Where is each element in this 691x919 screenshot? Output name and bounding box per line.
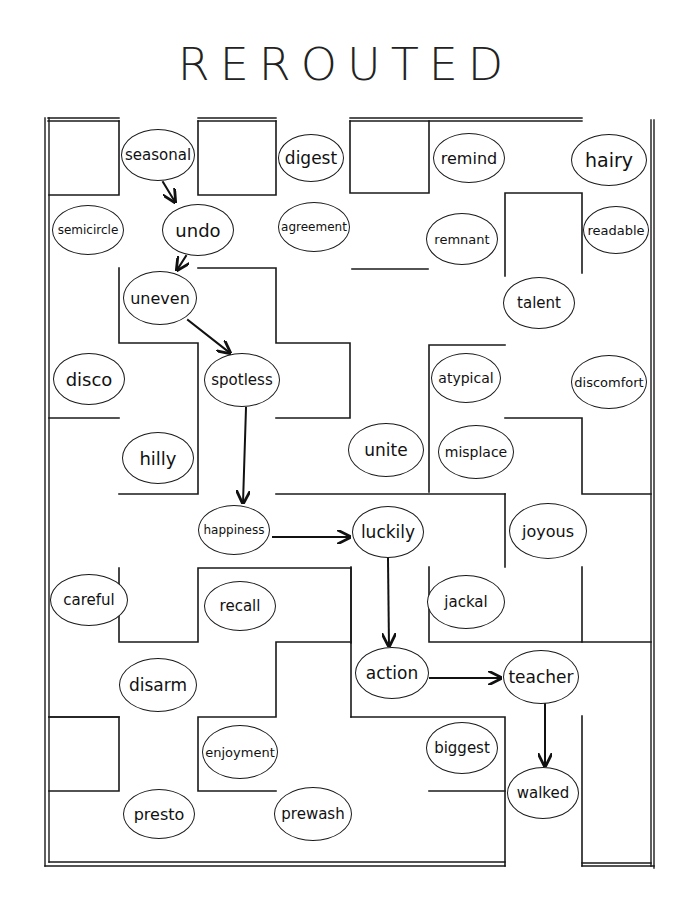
word-label: joyous xyxy=(522,522,574,541)
word-label: uneven xyxy=(130,289,190,308)
word-label: readable xyxy=(587,223,644,238)
word-label: digest xyxy=(285,148,337,168)
word-label: atypical xyxy=(438,370,493,386)
word-node-careful: careful xyxy=(50,574,128,626)
word-label: enjoyment xyxy=(205,745,275,760)
word-node-happiness: happiness xyxy=(198,505,270,555)
word-node-semicircle: semicircle xyxy=(52,205,124,255)
word-label: talent xyxy=(517,294,561,312)
word-node-readable: readable xyxy=(583,206,649,254)
word-label: teacher xyxy=(508,667,573,687)
word-label: walked xyxy=(517,784,570,802)
maze-inner-walls xyxy=(49,121,651,866)
word-node-discomfort: discomfort xyxy=(571,355,647,409)
word-node-misplace: misplace xyxy=(438,425,514,479)
word-node-hairy: hairy xyxy=(571,134,647,186)
word-label: spotless xyxy=(211,371,272,389)
word-node-biggest: biggest xyxy=(426,722,498,774)
word-label: luckily xyxy=(361,522,415,542)
word-label: remind xyxy=(441,149,497,168)
word-label: careful xyxy=(63,591,114,609)
word-label: semicircle xyxy=(58,223,119,237)
word-label: agreement xyxy=(281,220,347,234)
word-label: happiness xyxy=(203,523,264,537)
word-node-action: action xyxy=(355,647,429,699)
word-label: remnant xyxy=(434,232,489,247)
word-label: seasonal xyxy=(125,146,191,164)
word-node-recall: recall xyxy=(204,581,276,631)
word-node-disco: disco xyxy=(53,353,125,405)
word-label: jackal xyxy=(444,593,487,611)
word-label: disarm xyxy=(129,675,187,695)
word-label: biggest xyxy=(434,739,490,757)
word-label: presto xyxy=(134,805,185,824)
word-node-undo: undo xyxy=(162,204,234,256)
word-label: hilly xyxy=(139,448,176,469)
word-node-agreement: agreement xyxy=(278,202,350,252)
word-node-talent: talent xyxy=(503,277,575,329)
word-node-luckily: luckily xyxy=(352,506,424,558)
word-label: hairy xyxy=(585,149,633,171)
word-label: misplace xyxy=(445,444,508,460)
word-node-remnant: remnant xyxy=(426,213,498,265)
word-node-remind: remind xyxy=(433,133,505,183)
word-node-spotless: spotless xyxy=(204,353,280,407)
word-node-digest: digest xyxy=(278,134,344,182)
word-node-uneven: uneven xyxy=(123,271,197,325)
word-label: disco xyxy=(66,369,113,390)
word-label: action xyxy=(366,663,418,683)
word-node-unite: unite xyxy=(348,423,424,477)
word-node-prewash: prewash xyxy=(274,787,352,841)
word-node-atypical: atypical xyxy=(431,353,501,403)
word-node-seasonal: seasonal xyxy=(121,129,195,181)
word-node-presto: presto xyxy=(123,789,195,839)
word-label: undo xyxy=(175,220,220,241)
word-label: prewash xyxy=(281,805,344,823)
word-node-enjoyment: enjoyment xyxy=(202,725,278,779)
word-node-disarm: disarm xyxy=(119,658,197,712)
word-node-teacher: teacher xyxy=(503,650,579,704)
word-node-walked: walked xyxy=(507,767,579,819)
word-node-hilly: hilly xyxy=(122,432,194,484)
word-label: discomfort xyxy=(574,375,643,390)
word-node-jackal: jackal xyxy=(427,575,505,629)
word-node-joyous: joyous xyxy=(509,503,587,559)
word-label: recall xyxy=(220,597,261,615)
word-label: unite xyxy=(364,440,407,460)
